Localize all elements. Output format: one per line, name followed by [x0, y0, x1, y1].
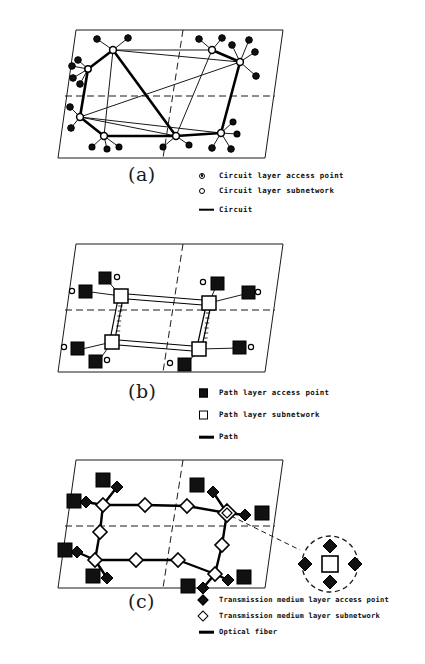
legend-label: Path layer access point: [219, 389, 329, 396]
legend-label: Transmission medium layer subnetwork: [219, 612, 380, 619]
legend-row-path-subnetwork: Path layer subnetwork: [197, 404, 329, 426]
filled-square-icon: [197, 386, 219, 400]
legend-row-tm-subnetwork: Transmission medium layer subnetwork: [197, 608, 389, 624]
legend-label: Circuit: [219, 206, 253, 213]
layered-network-figure: (a) Circuit layer access point Circuit l…: [0, 0, 425, 664]
legend-row-path-access-point: Path layer access point: [197, 382, 329, 404]
thick-line-icon: [197, 203, 219, 217]
open-square-icon: [197, 408, 219, 422]
filled-diamond-icon: [197, 593, 219, 607]
panel-label-c: (c): [128, 590, 155, 612]
panel-a-circuit-layer: (a) Circuit layer access point Circuit l…: [0, 0, 425, 222]
open-circle-icon: [197, 184, 219, 198]
legend-row-optical-fiber: Optical fiber: [197, 624, 389, 640]
legend-row-tm-access-point: Transmission medium layer access point: [197, 592, 389, 608]
legend-label: Path layer subnetwork: [219, 411, 320, 418]
legend-label: Circuit layer subnetwork: [219, 187, 334, 194]
open-diamond-icon: [197, 609, 219, 623]
magnified-inset: [298, 536, 362, 592]
legend-path-layer: Path layer access point Path layer subne…: [197, 382, 329, 448]
panel-b-path-layer: (b) Path layer access point Path layer s…: [0, 222, 425, 440]
panel-label-b: (b): [128, 380, 157, 402]
legend-label: Transmission medium layer access point: [219, 596, 389, 603]
legend-transmission-medium-layer: Transmission medium layer access point T…: [197, 592, 389, 640]
legend-circuit-layer: Circuit layer access point Circuit layer…: [197, 168, 344, 217]
legend-row-circuit-link: Circuit: [197, 202, 344, 217]
legend-row-circuit-subnetwork: Circuit layer subnetwork: [197, 183, 344, 198]
legend-label: Circuit layer access point: [219, 172, 344, 179]
panel-c-transmission-medium-layer: (c) Transmission medium layer access poi…: [0, 440, 425, 664]
legend-label: Optical fiber: [219, 628, 277, 635]
legend-row-circuit-access-point: Circuit layer access point: [197, 168, 344, 183]
panel-label-a: (a): [128, 163, 156, 185]
thick-line-icon: [197, 625, 219, 639]
filled-circle-icon: [197, 169, 219, 183]
